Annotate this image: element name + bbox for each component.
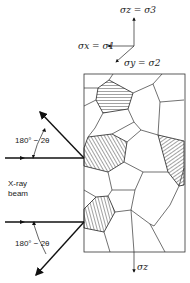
upper-beam: 180° − 2θ [5,112,84,160]
beam-label-line2: beam [8,189,28,198]
diffracted-beam-upper [40,112,84,158]
sigma-z-bottom-label: σz [137,262,148,272]
angle-label-upper: 180° − 2θ [15,136,50,145]
stress-axes: σz = σ3 σx = σ1 σy = σ2 [78,5,161,68]
sigma-z-label: σz = σ3 [120,5,156,15]
beam-label-line1: X-ray [8,179,27,188]
angle-arc-lower [33,222,46,254]
lower-beam: 180° − 2θ [5,220,84,275]
sigma-y-label: σy = σ2 [124,58,161,68]
sigma-x-label: σx = σ1 [78,41,114,51]
bottom-stress: σz [134,252,148,272]
angle-label-lower: 180° − 2θ [15,239,50,248]
diagram-canvas: σz = σ3 σx = σ1 σy = σ2 [0,0,190,283]
